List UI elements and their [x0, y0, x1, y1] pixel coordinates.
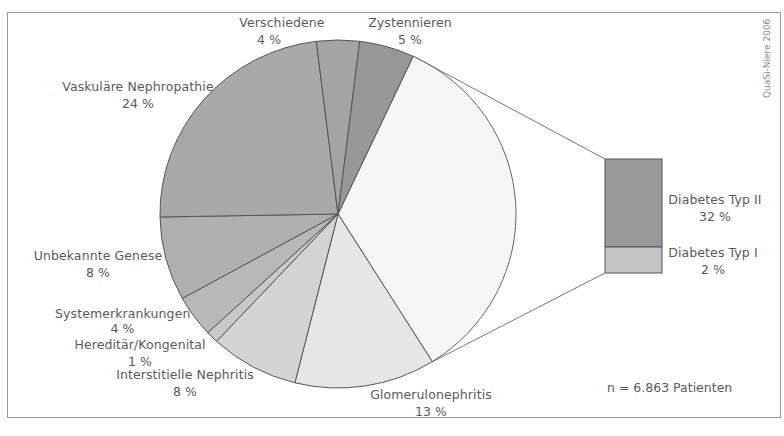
- label-name: Vaskuläre Nephropathie: [58, 78, 218, 95]
- label-value: 8 %: [33, 264, 163, 281]
- label-verschiedene: Verschiedene 4 %: [227, 14, 337, 48]
- label-vaskulaere-nephropathie: Vaskuläre Nephropathie 24 %: [58, 78, 218, 112]
- label-name: Hereditär/Kongenital: [70, 336, 210, 353]
- label-diabetes-typ-2: Diabetes Typ II 32 %: [665, 191, 765, 225]
- label-glomerulonephritis: Glomerulonephritis 13 %: [366, 386, 496, 420]
- label-interstitielle-nephritis: Interstitielle Nephritis 8 %: [115, 366, 255, 400]
- label-name: Verschiedene: [227, 14, 337, 31]
- label-unbekannte-genese: Unbekannte Genese 8 %: [33, 247, 163, 281]
- label-value: 2 %: [663, 261, 763, 278]
- label-name: Unbekannte Genese: [33, 247, 163, 264]
- label-value: 4 %: [227, 31, 337, 48]
- label-name: Glomerulonephritis: [366, 386, 496, 403]
- label-systemerkrankungen: Systemerkrankungen 4 %: [55, 305, 190, 336]
- label-value: 24 %: [58, 95, 218, 112]
- slice-vaskulaere-nephropathie: [160, 41, 338, 217]
- label-value: 32 %: [665, 208, 765, 225]
- label-name: Diabetes Typ I: [663, 244, 763, 261]
- label-value: 4 %: [55, 322, 190, 336]
- source-watermark: QuaSi-Niere 2006: [762, 18, 776, 98]
- label-value: 5 %: [355, 31, 465, 48]
- label-diabetes-typ-1: Diabetes Typ I 2 %: [663, 244, 763, 278]
- bar-diabetes-typ-2: [605, 159, 662, 247]
- label-hereditaer-kongenital: Hereditär/Kongenital 1 %: [70, 336, 210, 370]
- label-name: Interstitielle Nephritis: [115, 366, 255, 383]
- label-value: 8 %: [115, 383, 255, 400]
- label-name: Systemerkrankungen: [55, 305, 190, 322]
- bar-diabetes-typ-1: [605, 247, 662, 273]
- sample-size-note: n = 6.863 Patienten: [607, 380, 732, 395]
- label-zystennieren: Zystennieren 5 %: [355, 14, 465, 48]
- label-value: 13 %: [366, 403, 496, 420]
- label-name: Zystennieren: [355, 14, 465, 31]
- label-name: Diabetes Typ II: [665, 191, 765, 208]
